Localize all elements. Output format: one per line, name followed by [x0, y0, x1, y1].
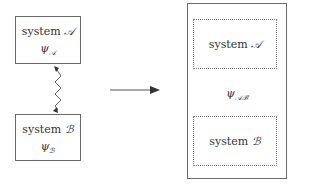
wavy-link-icon: [53, 66, 61, 113]
psi-ab-subscript: 𝒜ℬ: [235, 94, 248, 102]
inner-system-b-title: system ℬ: [194, 135, 276, 148]
inner-system-a-title: system 𝒜: [194, 38, 276, 51]
inner-system-b-name: ℬ: [252, 135, 261, 148]
arrow-right-icon: [110, 86, 160, 94]
inner-system-a-label: system: [209, 38, 248, 51]
inner-system-a-box: system 𝒜: [193, 19, 277, 69]
inner-system-a-name: 𝒜: [251, 38, 261, 51]
psi-ab: ψ𝒜ℬ: [188, 87, 286, 105]
psi-ab-symbol: ψ: [226, 87, 235, 100]
inner-system-b-label: system: [209, 135, 248, 148]
inner-system-b-box: system ℬ: [193, 116, 277, 166]
composite-system-box: system 𝒜 ψ𝒜ℬ system ℬ: [187, 3, 287, 179]
